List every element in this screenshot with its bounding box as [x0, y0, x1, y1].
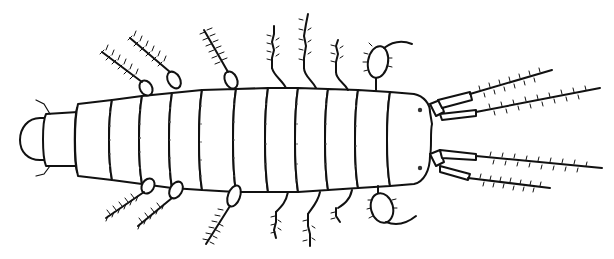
- tail-segment: [20, 100, 80, 176]
- head: [387, 92, 432, 186]
- larva-illustration: Line drawing of an insect larva, dorsal …: [0, 0, 614, 259]
- eyespot-left: [418, 108, 422, 112]
- eyespot-right: [418, 166, 422, 170]
- larva-drawing: [0, 0, 614, 259]
- body-segments: [75, 88, 432, 192]
- anterior-projections: [430, 68, 602, 192]
- upper-appendages: [100, 14, 412, 98]
